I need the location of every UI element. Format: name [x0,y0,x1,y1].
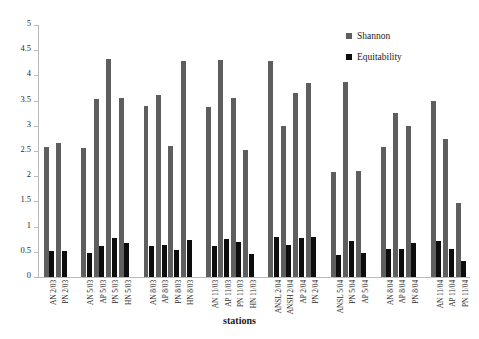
bar-shannon-22 [393,113,398,277]
x-tick-label: AP 5/04 [362,280,369,303]
bar-shannon-9 [181,61,186,277]
bar-shannon-24 [431,101,436,277]
legend-label-shannon: Shannon [357,31,390,41]
x-tick-label: AN 8/04 [387,280,394,305]
bar-equitability-25 [449,249,454,277]
bar-shannon-19 [343,82,348,277]
y-tick-label: 1.5 [20,194,31,204]
bar-shannon-17 [306,83,311,277]
bar-shannon-3 [94,99,99,277]
legend-item-shannon: Shannon [346,30,402,41]
y-tick-label: 0.5 [20,245,31,255]
bar-equitability-6 [149,246,154,277]
x-tick-label: AN 11/04 [437,280,444,308]
x-axis-line [38,277,470,278]
bar-equitability-7 [162,245,167,277]
bar-equitability-5 [124,243,129,277]
bar-equitability-10 [212,246,217,277]
bar-equitability-8 [174,250,179,277]
bar-equitability-0 [49,251,54,277]
plot-area [38,25,470,277]
legend-label-equitability: Equitability [357,52,402,62]
bar-equitability-26 [461,261,466,277]
x-tick-label: AN 8/03 [150,280,157,305]
bar-chart: 00.511.522.533.544.55 AN 2/03PN 2/03AN 5… [0,0,479,339]
x-tick-label: ANSL 5/04 [337,280,344,313]
bar-equitability-9 [187,240,192,277]
bar-shannon-4 [106,59,111,277]
y-tick-label: 2 [27,169,31,179]
bar-equitability-13 [249,254,254,277]
bar-shannon-18 [331,172,336,277]
x-tick-label: ANSL 2/04 [275,280,282,313]
x-tick-label: ANSH 2/04 [287,280,294,314]
x-tick-label: PN 5/04 [349,280,356,304]
legend-swatch-equitability [346,54,352,60]
x-tick-label: HN 8/03 [187,280,194,305]
x-tick-label: AN 5/03 [87,280,94,305]
bar-shannon-1 [56,143,61,277]
y-tick-label: 3.5 [20,94,31,104]
x-tick-label: PN 2/04 [312,280,319,304]
x-tick-label: AP 11/03 [225,280,232,307]
bar-shannon-10 [206,107,211,277]
bar-equitability-3 [99,246,104,277]
bar-equitability-14 [274,237,279,277]
x-tick-label: AN 11/03 [212,280,219,308]
bar-shannon-20 [356,171,361,277]
y-tick-label: 3 [27,119,31,129]
x-tick-label: AP 11/04 [449,280,456,307]
bar-shannon-26 [456,203,461,277]
x-tick-label: AP 2/04 [300,280,307,303]
x-tick-label: PN 11/04 [462,280,469,307]
bar-equitability-19 [349,241,354,277]
x-tick-label: AP 5/03 [100,280,107,303]
x-tick-label: AP 8/04 [399,280,406,303]
bar-equitability-12 [236,242,241,277]
bar-equitability-20 [361,253,366,277]
bar-shannon-11 [218,60,223,277]
x-tick-label: AP 8/03 [162,280,169,303]
bar-shannon-0 [44,147,49,277]
bar-equitability-18 [336,255,341,277]
y-tick-label: 1 [27,220,31,230]
x-tick-label: PN 8/03 [175,280,182,304]
x-tick-label: HN 5/03 [125,280,132,305]
bar-equitability-24 [436,241,441,277]
x-tick-label: PN 2/03 [62,280,69,304]
bar-equitability-23 [411,243,416,277]
bar-shannon-21 [381,147,386,277]
bar-equitability-21 [386,249,391,277]
y-tick-label: 4 [27,68,31,78]
y-tick-label: 5 [27,18,31,28]
bar-equitability-1 [62,251,67,277]
y-tick-mark [34,277,38,278]
x-tick-label: PN 5/03 [112,280,119,304]
bar-shannon-23 [406,126,411,277]
x-tick-label: PN 11/03 [237,280,244,307]
bar-equitability-11 [224,239,229,277]
x-tick-label: PN 8/04 [412,280,419,304]
bar-shannon-5 [119,98,124,277]
bar-shannon-13 [243,150,248,277]
legend-swatch-shannon [346,33,352,39]
legend-item-equitability: Equitability [346,51,402,62]
bar-equitability-22 [399,249,404,277]
bar-shannon-25 [443,139,448,277]
bar-shannon-14 [268,61,273,277]
bar-equitability-2 [87,253,92,277]
bar-shannon-2 [81,148,86,277]
x-tick-label: HN 11/03 [250,280,257,308]
y-tick-label: 2.5 [20,144,31,154]
y-tick-label: 0 [27,270,31,280]
y-tick-label: 4.5 [20,43,31,53]
bar-shannon-15 [281,126,286,277]
x-axis-title: stations [0,315,479,326]
bar-equitability-15 [286,245,291,277]
bar-shannon-7 [156,95,161,277]
chart-legend: Shannon Equitability [346,30,402,72]
bar-shannon-16 [293,93,298,277]
bar-equitability-17 [311,237,316,277]
bar-shannon-12 [231,98,236,277]
bar-equitability-16 [299,238,304,277]
